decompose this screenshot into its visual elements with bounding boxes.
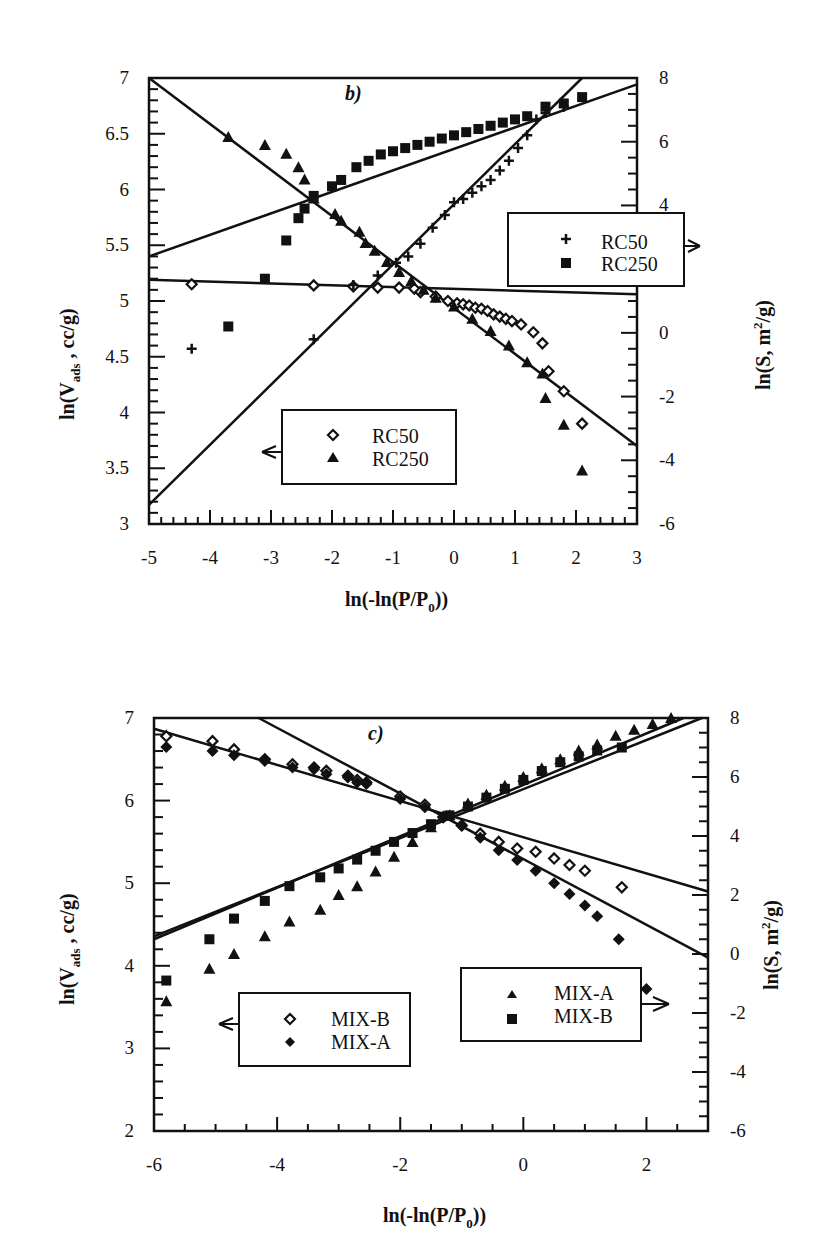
data-point (228, 948, 240, 959)
data-point (280, 148, 292, 159)
data-point (579, 900, 591, 912)
data-point (371, 846, 381, 856)
data-point (576, 464, 588, 475)
y-tick-label-left: 3 (125, 1037, 135, 1058)
legend-label: RC50 (372, 425, 419, 447)
data-point (333, 889, 345, 900)
y-tick-label-left: 6 (120, 179, 130, 200)
data-point (376, 149, 386, 159)
legend-label: MIX-A (331, 1031, 392, 1053)
data-point (485, 325, 497, 336)
data-point (558, 419, 570, 430)
data-point (647, 718, 659, 729)
data-point (500, 784, 510, 794)
legend-label: RC250 (601, 253, 658, 275)
data-point (161, 976, 171, 986)
y-tick-label-right: -4 (730, 1061, 746, 1082)
data-point (187, 344, 197, 354)
data-point (617, 882, 627, 892)
data-point (481, 793, 491, 803)
data-point (300, 204, 310, 214)
legend-right-axis: MIX-A MIX-B (461, 968, 669, 1041)
data-point (259, 930, 271, 941)
data-point (461, 127, 471, 137)
data-point (555, 757, 565, 767)
data-point (334, 863, 344, 873)
data-point (541, 102, 551, 112)
y-tick-label-left: 5.5 (105, 234, 129, 255)
chart-panel-c: -6-4-202234567-6-4-202468 c) ln(-ln(P/P0… (56, 707, 783, 1231)
x-tick-label: 0 (519, 1154, 529, 1175)
data-point (353, 226, 365, 237)
data-point (444, 810, 454, 820)
y-tick-label-left: 6.5 (105, 123, 129, 144)
data-point (329, 208, 341, 219)
data-point (628, 724, 640, 735)
data-point (577, 92, 587, 102)
data-point (293, 213, 303, 223)
data-point (400, 143, 410, 153)
y-tick-label-right: -4 (659, 449, 675, 470)
data-point (512, 844, 522, 854)
data-point (463, 802, 473, 812)
data-point (528, 327, 538, 337)
legend-label: MIX-B (331, 1008, 390, 1030)
data-point (613, 933, 625, 945)
data-point (511, 854, 523, 866)
legend-label: RC50 (601, 231, 648, 253)
data-point (564, 888, 576, 900)
y-tick-label-left: 6 (125, 790, 135, 811)
data-point (284, 881, 294, 891)
data-point (521, 356, 533, 367)
data-point (531, 114, 541, 124)
y-axis-title-right: ln(S, m2/g) (758, 900, 783, 990)
legend-left-axis: RC50 RC250 (262, 410, 456, 484)
y-tick-label-left: 4.5 (105, 346, 129, 367)
x-tick-label: 1 (510, 547, 520, 568)
data-point (476, 181, 486, 191)
data-point (428, 223, 438, 233)
data-point (574, 751, 584, 761)
y-tick-label-left: 5 (120, 290, 130, 311)
data-point (577, 419, 587, 429)
y-tick-label-left: 3 (120, 513, 130, 534)
data-point (309, 191, 319, 201)
x-tick-label: 2 (642, 1154, 652, 1175)
axis-ticks: -5-4-3-2-1012333.544.555.566.57-6-4-2024… (105, 67, 675, 568)
y-axis-title-left: ln(Vads , cc/g) (56, 893, 83, 1005)
data-point (229, 914, 239, 924)
legend-right-axis: RC50 RC250 (508, 213, 700, 286)
x-tick-label: 0 (449, 547, 459, 568)
data-point (473, 124, 483, 134)
data-point (640, 983, 652, 995)
x-tick-label: -6 (146, 1154, 162, 1175)
y-tick-label-right: -2 (659, 386, 675, 407)
data-point (549, 853, 559, 863)
data-point (364, 156, 374, 166)
data-point (388, 851, 400, 862)
data-point (531, 847, 541, 857)
data-point (486, 121, 496, 131)
data-point (259, 755, 271, 767)
y-tick-label-right: -2 (730, 1002, 746, 1023)
data-point (260, 896, 270, 906)
x-tick-label: 3 (632, 547, 642, 568)
axis-ticks: -6-4-202234567-6-4-202468 (125, 707, 747, 1175)
data-point (281, 235, 291, 245)
x-axis-title: ln(-ln(P/P0)) (383, 1204, 486, 1231)
x-tick-label: -5 (141, 547, 157, 568)
y-tick-label-left: 7 (125, 707, 135, 728)
data-point (370, 865, 382, 876)
data-point (458, 194, 468, 204)
x-tick-label: -4 (269, 1154, 285, 1175)
data-point (518, 775, 528, 785)
x-tick-label: -4 (202, 547, 218, 568)
data-point (565, 860, 575, 870)
y-tick-label-right: -6 (659, 513, 675, 534)
data-point (327, 181, 337, 191)
data-point (510, 114, 520, 124)
data-point (351, 880, 363, 891)
data-point (283, 916, 295, 927)
data-point (408, 828, 418, 838)
data-point (498, 118, 508, 128)
